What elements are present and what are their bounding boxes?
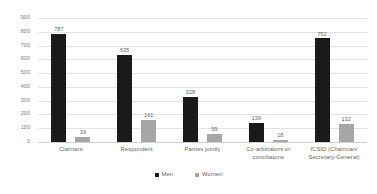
bar-value-label: 39 — [80, 130, 86, 135]
bar-men[interactable]: 139 — [249, 18, 264, 142]
x-axis: ClaimantRespondentParties jointlyCo-arbi… — [38, 145, 367, 169]
square-marker-icon — [155, 173, 159, 177]
legend-item[interactable]: Men — [155, 172, 174, 178]
bar-women[interactable]: 132 — [339, 18, 354, 142]
bar-value-label: 787 — [54, 27, 63, 32]
bar-women[interactable]: 39 — [75, 18, 90, 142]
y-axis-tick-label: 900 — [21, 15, 30, 20]
x-axis-tick-label: Claimant — [38, 145, 104, 169]
plot-area: 787396351613285913918752132 — [38, 18, 367, 142]
legend-item[interactable]: Women — [195, 172, 222, 178]
bar-women[interactable]: 59 — [207, 18, 222, 142]
bar-rect[interactable] — [207, 134, 222, 142]
bar-value-label: 752 — [317, 32, 326, 37]
bar-value-label: 132 — [341, 117, 350, 122]
bar-rect[interactable] — [51, 34, 66, 142]
y-axis-tick-label: 300 — [21, 98, 30, 103]
bar-group: 752132 — [301, 18, 367, 142]
bar-men[interactable]: 635 — [117, 18, 132, 142]
x-axis-tick-label: Co-arbitrators or conciliatons — [235, 145, 301, 169]
bar-value-label: 139 — [252, 116, 261, 121]
y-axis: 9008007006005004003002001000 — [0, 18, 34, 142]
bar-group: 32859 — [170, 18, 236, 142]
bar-group: 635161 — [104, 18, 170, 142]
x-axis-tick-label: Parties jointly — [170, 145, 236, 169]
legend-label: Women — [202, 172, 222, 178]
y-axis-tick-label: 200 — [21, 112, 30, 117]
y-axis-tick-label: 700 — [21, 43, 30, 48]
legend-label: Men — [162, 172, 174, 178]
gridline — [38, 142, 367, 143]
bar-value-label: 635 — [120, 48, 129, 53]
x-axis-tick-label: Respondent — [104, 145, 170, 169]
y-axis-tick-label: 0 — [27, 139, 30, 144]
x-axis-tick-label: ICSID (Chairman/ Secretary-General) — [301, 145, 367, 169]
bar-groups: 787396351613285913918752132 — [38, 18, 367, 142]
y-axis-tick-label: 600 — [21, 57, 30, 62]
bar-women[interactable]: 161 — [141, 18, 156, 142]
bar-rect[interactable] — [273, 140, 288, 142]
y-axis-tick-label: 800 — [21, 29, 30, 34]
bar-rect[interactable] — [183, 97, 198, 142]
y-axis-tick-label: 100 — [21, 126, 30, 131]
bar-rect[interactable] — [339, 124, 354, 142]
bar-value-label: 161 — [144, 113, 153, 118]
bar-rect[interactable] — [75, 137, 90, 142]
bar-men[interactable]: 787 — [51, 18, 66, 142]
bar-rect[interactable] — [249, 123, 264, 142]
square-marker-icon — [195, 173, 199, 177]
bar-rect[interactable] — [141, 120, 156, 142]
bar-group: 13918 — [235, 18, 301, 142]
bar-rect[interactable] — [117, 55, 132, 142]
bar-women[interactable]: 18 — [273, 18, 288, 142]
y-axis-tick-label: 400 — [21, 84, 30, 89]
bar-group: 78739 — [38, 18, 104, 142]
bar-value-label: 328 — [186, 90, 195, 95]
bar-rect[interactable] — [315, 38, 330, 142]
bar-men[interactable]: 752 — [315, 18, 330, 142]
grouped-bar-chart: 9008007006005004003002001000 78739635161… — [0, 0, 377, 194]
bar-men[interactable]: 328 — [183, 18, 198, 142]
y-axis-tick-label: 500 — [21, 70, 30, 75]
bar-value-label: 59 — [211, 127, 217, 132]
bar-value-label: 18 — [277, 133, 283, 138]
chart-legend: MenWomen — [0, 172, 377, 178]
